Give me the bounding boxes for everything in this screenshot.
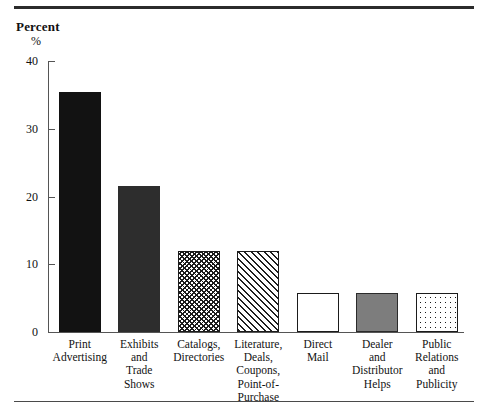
bar — [416, 293, 458, 332]
bars-layer — [0, 0, 488, 333]
x-axis-category-label: Public Relations and Publicity — [401, 338, 473, 391]
bar — [237, 251, 279, 332]
bar — [178, 251, 220, 332]
bar-chart-plot: 010203040 Print AdvertisingExhibits and … — [0, 0, 488, 413]
bar — [356, 293, 398, 332]
bar — [297, 293, 339, 332]
bar — [118, 186, 160, 332]
bar — [59, 92, 101, 333]
